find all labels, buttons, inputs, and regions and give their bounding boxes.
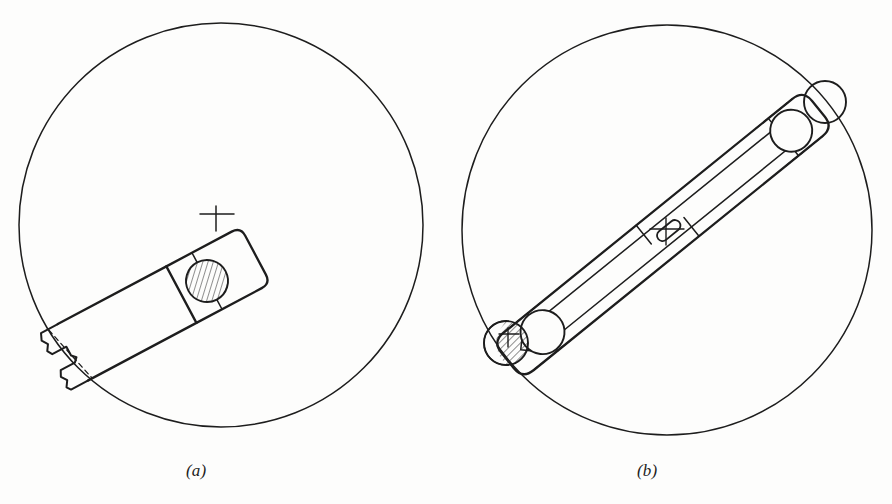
pin-tangent-bottom-a	[217, 300, 222, 310]
figure-plate: (a) (b)	[0, 0, 892, 504]
technical-drawing-canvas	[0, 0, 892, 504]
outer-circle-a	[19, 23, 423, 427]
figure-a-group	[19, 23, 423, 427]
figure-caption-a: (a)	[186, 461, 206, 481]
crank-arm-a	[38, 227, 270, 391]
pin-tangent-top-a	[192, 253, 197, 263]
figure-caption-b: (b)	[637, 461, 657, 481]
hatched-pin-a	[179, 253, 236, 310]
pin-outline-b-right	[762, 101, 821, 160]
figure-b-group	[462, 25, 872, 435]
connecting-link-b	[492, 90, 833, 379]
break-line-notch-a	[38, 324, 88, 391]
crosshair-mark-a	[200, 206, 234, 231]
